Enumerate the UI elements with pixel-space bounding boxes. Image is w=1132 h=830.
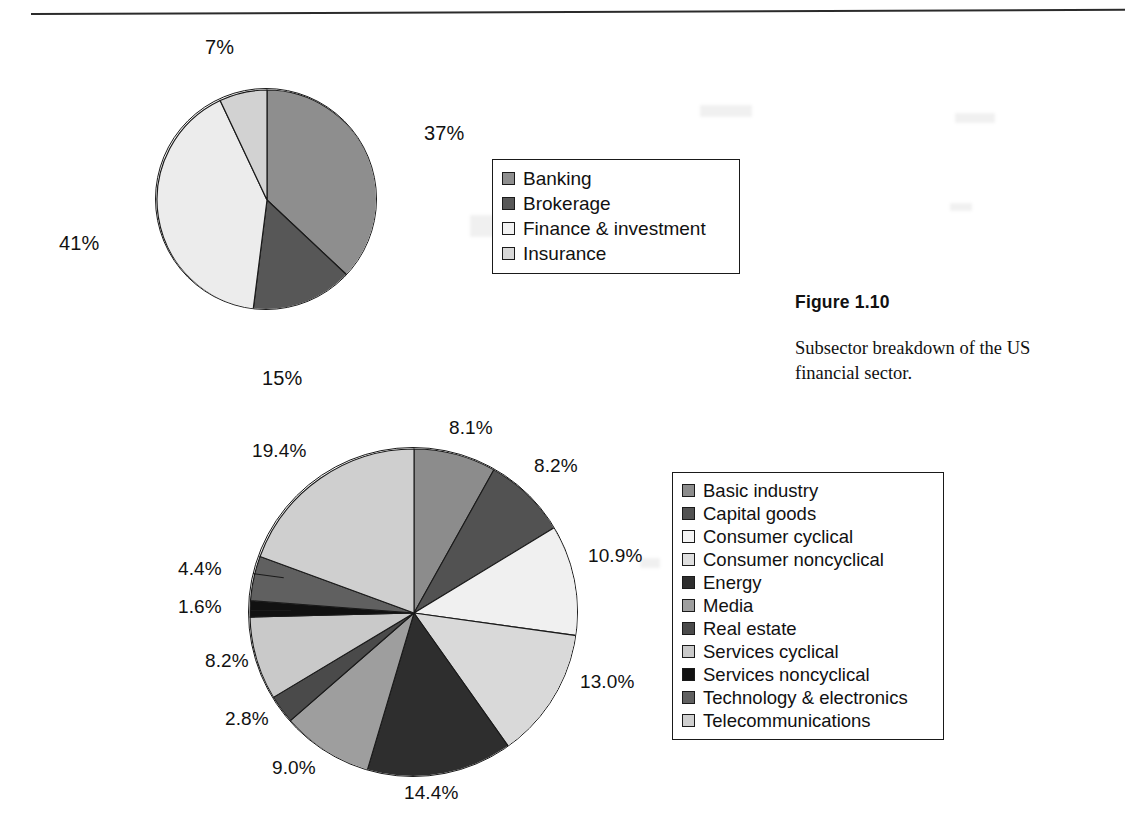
- legend-swatch-brokerage: [502, 197, 515, 210]
- pie-1-label-finance-investment: 41%: [59, 232, 99, 255]
- pie-2-label-energy: 14.4%: [404, 782, 458, 804]
- pie-2-legend: Basic industry Capital goods Consumer cy…: [672, 472, 944, 740]
- legend-item-consumer-noncyclical[interactable]: Consumer noncyclical: [682, 548, 933, 571]
- pie-2-label-media: 9.0%: [272, 757, 316, 779]
- legend-item-media[interactable]: Media: [682, 594, 933, 617]
- legend-label-finance-investment: Finance & investment: [523, 219, 706, 238]
- pie-2-label-telecommunications: 19.4%: [252, 440, 306, 462]
- legend-swatch-finance-investment: [502, 222, 515, 235]
- legend-item-insurance[interactable]: Insurance: [502, 241, 729, 266]
- legend-swatch-consumer-cyclical: [682, 530, 695, 543]
- pie-chart-corporate-sectors: [248, 447, 578, 777]
- legend-swatch-services-cyclical: [682, 645, 695, 658]
- figure-caption: Subsector breakdown of the US financial …: [795, 336, 1095, 386]
- scan-smudge: [640, 558, 660, 568]
- figure-number: Figure 1.10: [795, 292, 890, 313]
- scan-smudge: [700, 105, 752, 117]
- legend-swatch-technology-electronics: [682, 691, 695, 704]
- pie-2-slices: [249, 448, 578, 777]
- legend-item-energy[interactable]: Energy: [682, 571, 933, 594]
- pie-1-legend: Banking Brokerage Finance & investment I…: [492, 159, 740, 274]
- legend-label-services-noncyclical: Services noncyclical: [703, 665, 870, 684]
- pie-2-label-basic-industry: 8.1%: [449, 417, 493, 439]
- scan-smudge: [955, 113, 995, 123]
- legend-item-services-noncyclical[interactable]: Services noncyclical: [682, 663, 933, 686]
- pie-2-slice-group: [250, 449, 578, 777]
- legend-label-brokerage: Brokerage: [523, 194, 611, 213]
- pie-2-label-consumer-cyclical: 10.9%: [588, 545, 642, 567]
- legend-swatch-basic-industry: [682, 484, 695, 497]
- legend-swatch-capital-goods: [682, 507, 695, 520]
- legend-label-banking: Banking: [523, 169, 592, 188]
- legend-item-basic-industry[interactable]: Basic industry: [682, 479, 933, 502]
- legend-item-services-cyclical[interactable]: Services cyclical: [682, 640, 933, 663]
- legend-item-consumer-cyclical[interactable]: Consumer cyclical: [682, 525, 933, 548]
- legend-label-capital-goods: Capital goods: [703, 504, 816, 523]
- legend-item-real-estate[interactable]: Real estate: [682, 617, 933, 640]
- pie-2-label-services-cyclical: 8.2%: [205, 650, 249, 672]
- legend-label-telecommunications: Telecommunications: [703, 711, 871, 730]
- legend-swatch-consumer-noncyclical: [682, 553, 695, 566]
- pie-2-label-technology-electronics: 4.4%: [178, 558, 222, 580]
- legend-swatch-energy: [682, 576, 695, 589]
- legend-label-media: Media: [703, 596, 753, 615]
- legend-label-energy: Energy: [703, 573, 762, 592]
- legend-label-real-estate: Real estate: [703, 619, 797, 638]
- pie-2-label-capital-goods: 8.2%: [534, 455, 578, 477]
- pie-2-disc: [248, 447, 578, 777]
- legend-label-consumer-cyclical: Consumer cyclical: [703, 527, 853, 546]
- scan-smudge: [950, 203, 972, 211]
- legend-swatch-insurance: [502, 247, 515, 260]
- legend-label-basic-industry: Basic industry: [703, 481, 818, 500]
- pie-1-label-insurance: 7%: [205, 36, 234, 59]
- legend-swatch-banking: [502, 172, 515, 185]
- pie-1-label-banking: 37%: [424, 122, 464, 145]
- legend-label-services-cyclical: Services cyclical: [703, 642, 839, 661]
- legend-swatch-media: [682, 599, 695, 612]
- pie-2-leader-services-noncyclical: [251, 610, 291, 611]
- legend-label-insurance: Insurance: [523, 244, 606, 263]
- legend-item-capital-goods[interactable]: Capital goods: [682, 502, 933, 525]
- pie-2-label-real-estate: 2.8%: [225, 708, 269, 730]
- pie-1-slices: [156, 89, 377, 310]
- page-horizontal-rule: [31, 9, 1125, 15]
- legend-label-technology-electronics: Technology & electronics: [703, 688, 908, 707]
- pie-2-label-consumer-noncyclical: 13.0%: [580, 671, 634, 693]
- pie-1-label-brokerage: 15%: [262, 367, 302, 390]
- legend-swatch-real-estate: [682, 622, 695, 635]
- legend-label-consumer-noncyclical: Consumer noncyclical: [703, 550, 884, 569]
- legend-swatch-telecommunications: [682, 714, 695, 727]
- legend-item-brokerage[interactable]: Brokerage: [502, 191, 729, 216]
- pie-1-disc: [155, 88, 377, 310]
- legend-item-telecommunications[interactable]: Telecommunications: [682, 709, 933, 732]
- legend-item-technology-electronics[interactable]: Technology & electronics: [682, 686, 933, 709]
- pie-2-label-services-noncyclical: 1.6%: [178, 596, 222, 618]
- legend-swatch-services-noncyclical: [682, 668, 695, 681]
- legend-item-finance-investment[interactable]: Finance & investment: [502, 216, 729, 241]
- legend-item-banking[interactable]: Banking: [502, 166, 729, 191]
- pie-chart-financial-subsectors: [155, 88, 377, 310]
